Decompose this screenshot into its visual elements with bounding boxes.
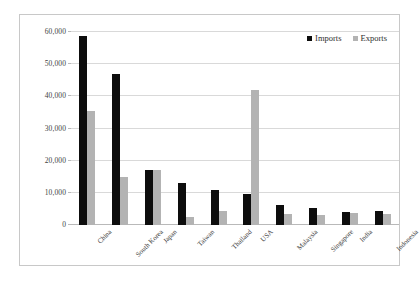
category-label: Malaysia [296, 228, 320, 252]
category-label: Taiwan [196, 228, 216, 248]
bar-group [169, 32, 202, 225]
bar-imports [309, 208, 317, 225]
bar-group [366, 32, 399, 225]
bar-imports [211, 190, 219, 225]
category-axis: ChinaSouth KoreaJapanTaiwanThailandUSAMa… [71, 225, 399, 267]
category-label: USA [259, 228, 275, 244]
bar-exports [153, 170, 161, 225]
y-axis-tick-label: 60,000 [45, 27, 66, 36]
y-axis-tick-label: 0 [62, 220, 66, 229]
category-label: India [358, 228, 374, 244]
bar-exports [350, 213, 358, 225]
bar-group [104, 32, 137, 225]
category-label: China [96, 228, 113, 245]
bar-exports [186, 217, 194, 225]
category-label: Japan [162, 228, 179, 245]
bar-imports [375, 211, 383, 225]
bar-group [137, 32, 170, 225]
bar-group [235, 32, 268, 225]
chart-container: Imports Exports 010,00020,00030,00040,00… [19, 14, 400, 266]
bar-exports [383, 214, 391, 225]
bar-imports [276, 205, 284, 225]
bar-imports [243, 194, 251, 225]
bar-imports [79, 36, 87, 225]
y-axis-tick-label: 10,000 [45, 187, 66, 196]
bar-exports [120, 177, 128, 225]
category-label: Singapore [329, 228, 355, 254]
y-axis-tick-label: 40,000 [45, 91, 66, 100]
bar-imports [145, 170, 153, 225]
bar-exports [87, 111, 95, 225]
bar-imports [342, 212, 350, 226]
bars-layer [71, 32, 399, 225]
bar-exports [317, 215, 325, 225]
category-label: Thailand [230, 228, 253, 251]
y-axis-tick-label: 30,000 [45, 123, 66, 132]
y-axis-tick-label: 20,000 [45, 155, 66, 164]
bar-group [71, 32, 104, 225]
bar-exports [219, 211, 227, 225]
bar-group [268, 32, 301, 225]
bar-group [301, 32, 334, 225]
bar-imports [112, 74, 120, 225]
bar-group [202, 32, 235, 225]
plot-area: 010,00020,00030,00040,00050,00060,000 [71, 32, 399, 225]
bar-exports [251, 90, 259, 225]
bar-group [333, 32, 366, 225]
bar-imports [178, 183, 186, 225]
category-label: South Korea [134, 228, 165, 259]
y-axis-tick-label: 50,000 [45, 59, 66, 68]
category-label: Indonesia [395, 228, 419, 253]
bar-exports [284, 214, 292, 225]
